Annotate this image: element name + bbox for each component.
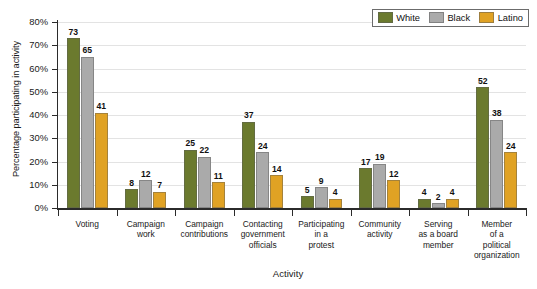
x-category-label-line: Campaign [113, 219, 180, 229]
bar-wrapper: 22 [198, 157, 211, 208]
legend-item-latino: Latino [479, 12, 523, 23]
bar-wrapper: 73 [67, 38, 80, 208]
bar-value-label: 24 [496, 141, 525, 151]
bar-wrapper: 38 [490, 120, 503, 208]
y-tick-label: 0% [0, 202, 48, 213]
x-tick-mark [409, 209, 410, 216]
x-category-label-line: government [230, 229, 297, 239]
legend-swatch-latino [479, 12, 494, 23]
bar-value-label: 4 [321, 187, 350, 197]
x-category-label-line: political [464, 240, 531, 250]
y-tick-label: 70% [0, 39, 48, 50]
x-category-label: Servingas a boardmember [405, 219, 472, 250]
x-tick-mark [117, 209, 118, 216]
legend-swatch-black [429, 12, 444, 23]
x-category-label-line: Serving [405, 219, 472, 229]
bar-value-label: 22 [190, 145, 219, 155]
bar-value-label: 12 [379, 169, 408, 179]
x-category-label-line: organization [464, 250, 531, 260]
bar[interactable] [256, 152, 269, 208]
bar-value-label: 4 [438, 187, 467, 197]
x-tick-mark [175, 209, 176, 216]
bar-group: 252211 [175, 150, 234, 208]
legend-label-white: White [396, 13, 420, 23]
bar-group: 372414 [234, 122, 293, 208]
bar[interactable] [432, 203, 445, 208]
x-category-label: Participatingin aprotest [288, 219, 355, 250]
bar-wrapper: 52 [476, 87, 489, 208]
gridline [58, 92, 526, 93]
x-category-label-line: protest [288, 240, 355, 250]
gridline [58, 138, 526, 139]
bar[interactable] [95, 113, 108, 208]
bar[interactable] [387, 180, 400, 208]
bar-wrapper: 37 [242, 122, 255, 208]
bar[interactable] [490, 120, 503, 208]
bar[interactable] [476, 87, 489, 208]
bar[interactable] [329, 199, 342, 208]
bar[interactable] [359, 168, 372, 208]
x-category-label-line: officials [230, 240, 297, 250]
y-tick-label: 80% [0, 16, 48, 27]
x-category-label-line: Member [464, 219, 531, 229]
x-tick-mark [58, 209, 59, 216]
y-tick-label: 20% [0, 156, 48, 167]
x-tick-mark [526, 209, 527, 216]
legend-item-white: White [378, 12, 420, 23]
x-category-label-line: member [405, 240, 472, 250]
x-tick-mark [292, 209, 293, 216]
x-tick-mark [351, 209, 352, 216]
bar-value-label: 65 [73, 45, 102, 55]
y-tick-label: 40% [0, 109, 48, 120]
x-category-label-line: as a board [405, 229, 472, 239]
bar[interactable] [184, 150, 197, 208]
bar-group: 171912 [351, 164, 410, 208]
bar[interactable] [301, 196, 314, 208]
bar[interactable] [81, 57, 94, 208]
bar-value-label: 37 [234, 110, 263, 120]
bar[interactable] [504, 152, 517, 208]
bar[interactable] [212, 182, 225, 208]
bar-value-label: 19 [365, 152, 394, 162]
gridline [58, 45, 526, 46]
bar-wrapper: 4 [446, 199, 459, 208]
bar-wrapper: 5 [301, 196, 314, 208]
y-tick-label: 30% [0, 132, 48, 143]
x-category-label: Contactinggovernmentofficials [230, 219, 297, 250]
x-category-label-line: work [113, 229, 180, 239]
bar[interactable] [125, 189, 138, 208]
bar-group: 594 [292, 187, 351, 208]
x-category-label: Voting [54, 219, 121, 229]
bar-wrapper: 24 [504, 152, 517, 208]
x-category-label: Campaigncontributions [171, 219, 238, 240]
legend: White Black Latino [372, 9, 529, 27]
bar[interactable] [198, 157, 211, 208]
bar-value-label: 11 [204, 171, 233, 181]
bar[interactable] [242, 122, 255, 208]
gridline [58, 115, 526, 116]
x-category-label-line: Contacting [230, 219, 297, 229]
x-category-label: Campaignwork [113, 219, 180, 240]
x-category-label: Communityactivity [347, 219, 414, 240]
bar-group: 736541 [58, 38, 117, 208]
bar[interactable] [153, 192, 166, 208]
bar-group: 523824 [468, 87, 527, 208]
legend-item-black: Black [429, 12, 470, 23]
x-tick-mark [468, 209, 469, 216]
bar-value-label: 9 [307, 176, 336, 186]
bar-wrapper: 7 [153, 192, 166, 208]
bar-wrapper: 11 [212, 182, 225, 208]
legend-swatch-white [378, 12, 393, 23]
bar-value-label: 14 [262, 164, 291, 174]
plot-area: 7365418127252211372414594171912424523824 [58, 22, 526, 208]
bar-wrapper: 25 [184, 150, 197, 208]
bar-wrapper: 4 [329, 199, 342, 208]
bar-value-label: 24 [248, 141, 277, 151]
gridline [58, 69, 526, 70]
x-axis-title: Activity [58, 268, 518, 279]
bar-value-label: 7 [145, 180, 174, 190]
bar[interactable] [446, 199, 459, 208]
bar[interactable] [67, 38, 80, 208]
bar-wrapper: 8 [125, 189, 138, 208]
bar[interactable] [270, 175, 283, 208]
